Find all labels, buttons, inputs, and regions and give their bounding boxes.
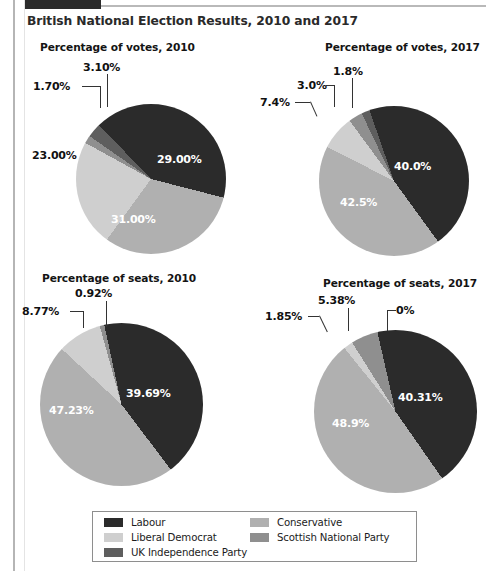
leader-line-seats-2017-ukip-vertical — [387, 310, 388, 331]
legend-label-scottish-national-party: Scottish National Party — [277, 532, 390, 543]
pie-chart-seats-2010: 39.69% 47.23% 8.77% 0.92% — [0, 260, 247, 510]
pie-value-seats-2017-labour: 40.31% — [398, 391, 443, 404]
pie-value-votes-2010-labour: 29.00% — [157, 153, 202, 166]
legend-label-conservative: Conservative — [277, 517, 342, 528]
legend-item-conservative: Conservative — [250, 517, 342, 528]
pie-value-votes-2017-snp: 3.0% — [297, 79, 327, 92]
leader-line-votes-2017-ukip-vertical — [352, 78, 353, 108]
pie-value-votes-2010-conservative: 31.00% — [111, 213, 156, 226]
pie-value-votes-2010-ukip: 3.10% — [83, 61, 120, 74]
pie-value-votes-2017-conservative: 42.5% — [340, 196, 377, 209]
pie-value-votes-2017-labour: 40.0% — [394, 160, 431, 173]
pie-value-seats-2010-liberal-democrat: 8.77% — [22, 305, 59, 318]
pie-slices-seats-2017 — [314, 330, 477, 493]
pie-value-seats-2010-conservative: 47.23% — [49, 404, 94, 417]
leader-line-seats-2010-snp-vertical — [106, 301, 107, 327]
legend-swatch-liberal-democrat — [104, 533, 123, 542]
pie-value-seats-2010-snp: 0.92% — [75, 287, 112, 300]
pie-slices-votes-2010 — [76, 104, 226, 254]
pie-value-seats-2017-conservative: 48.9% — [332, 417, 369, 430]
leader-line-votes-2017-libdem-diagonal — [310, 102, 317, 117]
leader-line-votes-2017-libdem-horizontal — [295, 102, 310, 103]
pie-value-seats-2017-ukip: 0% — [396, 304, 414, 317]
legend-label-labour: Labour — [131, 517, 165, 528]
pie-value-votes-2010-snp: 1.70% — [33, 80, 70, 93]
leader-line-votes-2010-snp-vertical — [100, 86, 101, 108]
legend-item-liberal-democrat: Liberal Democrat — [104, 532, 217, 543]
leader-line-votes-2010-snp-horizontal — [82, 86, 101, 87]
leader-line-seats-2017-ukip-horizontal — [387, 310, 396, 311]
pie-chart-seats-2017: 40.31% 48.9% 1.85% 5.38% 0% — [247, 260, 494, 510]
pie-value-seats-2010-labour: 39.69% — [126, 387, 171, 400]
legend-swatch-labour — [104, 518, 123, 527]
pie-value-votes-2010-liberal-democrat: 23.00% — [32, 149, 77, 162]
leader-line-votes-2017-snp-vertical — [334, 85, 335, 107]
legend-label-uk-independence-party: UK Independence Party — [131, 547, 247, 558]
pie-value-seats-2017-liberal-democrat: 1.85% — [265, 310, 302, 323]
pie-value-votes-2017-ukip: 1.8% — [333, 65, 363, 78]
leader-line-seats-2017-libdem-horizontal — [308, 316, 319, 317]
pie-value-seats-2017-snp: 5.38% — [318, 294, 355, 307]
leader-line-seats-2010-libdem-horizontal — [70, 311, 84, 312]
legend-label-liberal-democrat: Liberal Democrat — [131, 532, 217, 543]
leader-line-seats-2010-libdem-vertical — [83, 311, 84, 328]
chart-legend: Labour Liberal Democrat UK Independence … — [92, 511, 417, 562]
pie-chart-votes-2010: 29.00% 31.00% 23.00% 1.70% 3.10% — [0, 0, 247, 260]
leader-line-seats-2017-snp-vertical — [348, 308, 349, 331]
legend-item-uk-independence-party: UK Independence Party — [104, 547, 247, 558]
pie-chart-votes-2017: 40.0% 42.5% 7.4% 3.0% 1.8% — [247, 0, 494, 260]
legend-swatch-uk-independence-party — [104, 548, 123, 557]
legend-item-scottish-national-party: Scottish National Party — [250, 532, 390, 543]
pie-value-votes-2017-liberal-democrat: 7.4% — [260, 96, 290, 109]
leader-line-seats-2017-libdem-diagonal — [319, 316, 328, 333]
pie-slices-votes-2017 — [319, 106, 469, 256]
legend-swatch-scottish-national-party — [250, 533, 269, 542]
legend-item-labour: Labour — [104, 517, 165, 528]
legend-swatch-conservative — [250, 518, 269, 527]
leader-line-votes-2010-ukip-vertical — [107, 74, 108, 107]
